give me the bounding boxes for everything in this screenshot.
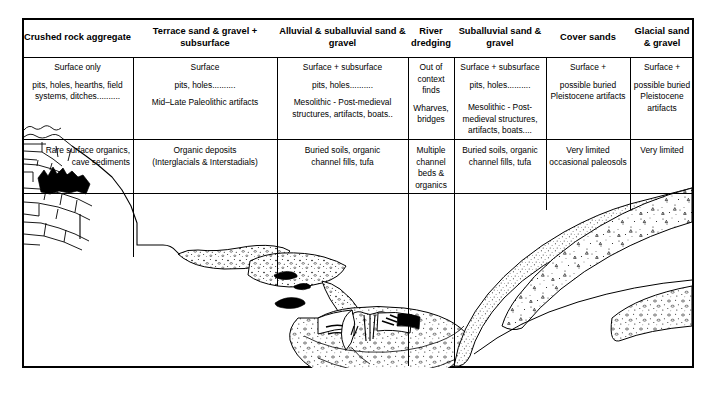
deposit-cell-terrace-sand-gravel: Organic deposits (Interglacials & Inters… xyxy=(133,139,277,193)
deposit-line: Very limited xyxy=(549,145,627,157)
resource-cell-alluvial-suballuvial-sand-gravel: Surface + subsurface pits, holes........… xyxy=(277,57,408,139)
resource-cell-cover-sands: Surface + possible buried Pleistocene ar… xyxy=(546,57,630,139)
resource-line: Surface + subsurface xyxy=(280,62,405,74)
resource-cell-river-dredging: Out of context finds Wharves, bridges xyxy=(408,57,454,139)
deposit-cell-glacial-sand-gravel: Very limited xyxy=(630,139,694,193)
header-text: Suballuvial sand & gravel xyxy=(456,26,544,49)
resource-line: Mesolithic - Post-medieval structures, a… xyxy=(280,97,405,120)
header-text: Alluvial & suballuvial sand & gravel xyxy=(279,26,406,49)
resource-cell-terrace-sand-gravel: Surface pits, holes.......... Mid–Late P… xyxy=(133,57,277,139)
column-header-glacial-sand-gravel: Glacial sand & gravel xyxy=(630,18,694,57)
table-row3-rule xyxy=(22,193,694,194)
deposit-line: occasional paleosols xyxy=(549,157,627,169)
resource-cell-crushed-rock-aggregate: Surface only pits, holes, hearths, field… xyxy=(22,57,133,139)
deposit-cell-crushed-rock-aggregate: Rare surface organics, cave sediments xyxy=(22,139,133,193)
column-header-suballuvial-sand-gravel: Suballuvial sand & gravel xyxy=(454,18,546,57)
column-header-crushed-rock-aggregate: Crushed rock aggregate xyxy=(22,18,133,57)
deposit-line: Organic deposits xyxy=(136,145,274,157)
deposit-line: Multiple channel beds & organics xyxy=(411,145,451,191)
resource-line: pits, holes, hearths, field systems, dit… xyxy=(25,80,130,103)
column-header-river-dredging: River dredging xyxy=(408,18,454,57)
deposit-line: Rare surface organics, xyxy=(25,145,130,157)
resource-line: Surface only xyxy=(25,62,130,74)
header-text: River dredging xyxy=(410,26,452,49)
deposit-cell-river-dredging: Multiple channel beds & organics xyxy=(408,139,454,211)
resource-cell-suballuvial-sand-gravel: Surface + subsurface pits, holes........… xyxy=(454,57,546,139)
deposit-line: (Interglacials & Interstadials) xyxy=(136,157,274,169)
resource-line: Surface + subsurface xyxy=(457,62,543,74)
resource-table: Crushed rock aggregate Terrace sand & gr… xyxy=(22,18,694,193)
resource-line: possible buried Pleistocene artifacts xyxy=(549,80,627,103)
resource-line: possible buried Pleistocene artifacts xyxy=(633,80,691,115)
column-header-terrace-sand-gravel: Terrace sand & gravel + subsurface xyxy=(133,18,277,57)
deposit-line: channel fills, tufa xyxy=(280,157,405,169)
figure-root: Crushed rock aggregate Terrace sand & gr… xyxy=(0,0,715,400)
deposit-cell-cover-sands: Very limited occasional paleosols xyxy=(546,139,630,193)
resource-line: pits, holes.......... xyxy=(280,80,405,92)
resource-line: Wharves, bridges xyxy=(411,103,451,126)
resource-line: pits, holes.......... xyxy=(136,80,274,92)
resource-line: Out of context finds xyxy=(411,62,451,97)
deposit-line: Very limited xyxy=(633,145,691,157)
deposit-line: Buried soils, organic xyxy=(457,145,543,157)
deposit-line: channel fills, tufa xyxy=(457,157,543,169)
resource-line: Surface + xyxy=(549,62,627,74)
deposit-line: cave sediments xyxy=(25,157,130,169)
resource-line: Surface xyxy=(136,62,274,74)
resource-line: Mid–Late Paleolithic artifacts xyxy=(136,97,274,109)
deposit-cell-suballuvial-sand-gravel: Buried soils, organic channel fills, tuf… xyxy=(454,139,546,193)
deposit-line: Buried soils, organic xyxy=(280,145,405,157)
deposit-cell-alluvial-suballuvial-sand-gravel: Buried soils, organic channel fills, tuf… xyxy=(277,139,408,193)
column-header-alluvial-suballuvial-sand-gravel: Alluvial & suballuvial sand & gravel xyxy=(277,18,408,57)
resource-line: Mesolithic - Post-medieval structures, a… xyxy=(457,102,543,137)
column-header-cover-sands: Cover sands xyxy=(546,18,630,57)
header-text: Glacial sand & gravel xyxy=(632,26,692,49)
header-text: Cover sands xyxy=(560,32,616,44)
header-text: Terrace sand & gravel + subsurface xyxy=(135,26,275,49)
resource-line: Surface + xyxy=(633,62,691,74)
resource-line: pits, holes.......... xyxy=(457,80,543,92)
resource-cell-glacial-sand-gravel: Surface + possible buried Pleistocene ar… xyxy=(630,57,694,139)
header-text: Crushed rock aggregate xyxy=(24,32,131,44)
